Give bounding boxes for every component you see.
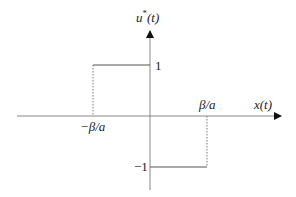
tick-label-neg-one: −1 — [134, 159, 148, 174]
tick-label-neg-beta-a: −β/a — [80, 119, 106, 134]
control-law-diagram: u*(t) x(t) 1 −1 β/a −β/a — [0, 0, 296, 197]
y-axis-label: u*(t) — [136, 8, 159, 25]
tick-label-pos-beta-a: β/a — [198, 97, 216, 112]
x-axis-label: x(t) — [253, 97, 272, 112]
tick-label-pos-one: 1 — [155, 58, 162, 73]
